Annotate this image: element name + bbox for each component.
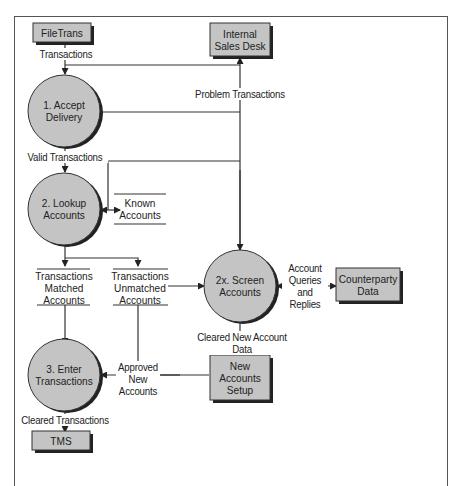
flow-line: Account	[282, 262, 328, 274]
store-line: Accounts	[119, 294, 161, 306]
entity-line: Data	[357, 285, 378, 297]
process-lookup-accounts: 2. Lookup Accounts	[31, 195, 97, 223]
process-enter-transactions: 3. Enter Transactions	[31, 361, 97, 389]
process-line: 1. Accept	[43, 99, 85, 111]
flow-label-account-queries: Account Queries and Replies	[282, 262, 328, 310]
store-line: Accounts	[43, 294, 85, 306]
entity-filetrans: FileTrans	[35, 23, 88, 42]
store-matched-accounts: Transactions Matched Accounts	[33, 270, 96, 306]
entity-new-accounts-setup: New Accounts Setup	[212, 355, 267, 400]
process-line: Accounts	[219, 286, 261, 298]
flow-label-problem-transactions: Problem Transactions	[194, 88, 286, 100]
flow-label-cleared-transactions: Cleared Transactions	[20, 414, 110, 426]
store-line: Unmatched	[114, 282, 166, 294]
store-known-accounts: Known Accounts	[116, 196, 164, 222]
flow-line: Approved	[116, 361, 160, 373]
entity-line: Sales Desk	[214, 40, 265, 52]
flow-line: Replies	[282, 298, 328, 310]
flow-label-transactions: Transactions	[33, 48, 99, 60]
entity-tms: TMS	[34, 431, 87, 450]
process-line: Transactions	[35, 375, 93, 387]
store-unmatched-accounts: Transactions Unmatched Accounts	[109, 270, 172, 306]
entity-line: New	[230, 360, 250, 372]
entity-line: Accounts	[219, 372, 261, 384]
process-line: 3. Enter	[46, 363, 81, 375]
entity-counterparty-data: Counterparty Data	[339, 268, 398, 301]
flow-label-valid-transactions: Valid Transactions	[22, 151, 108, 163]
store-line: Known	[125, 197, 156, 209]
entity-line: Counterparty	[339, 273, 398, 285]
flow-label-approved-new-accounts: Approved New Accounts	[116, 361, 160, 397]
process-accept-delivery: 1. Accept Delivery	[31, 97, 97, 125]
process-line: Accounts	[43, 209, 85, 221]
process-line: 2. Lookup	[42, 197, 86, 209]
store-line: Matched	[45, 282, 84, 294]
flow-line: and	[282, 286, 328, 298]
store-line: Accounts	[119, 209, 161, 221]
flow-line: Queries	[282, 274, 328, 286]
entity-line: Internal	[223, 28, 257, 40]
flow-line: Accounts	[116, 385, 160, 397]
flow-label-cleared-new-account-data: Cleared New Account Data	[188, 331, 297, 355]
entity-internal-sales-desk: Internal Sales Desk	[212, 23, 267, 56]
store-line: Transactions	[35, 270, 93, 282]
store-line: Transactions	[111, 270, 169, 282]
flow-line: New	[116, 373, 160, 385]
process-line: 2x. Screen	[216, 274, 264, 286]
process-screen-accounts: 2x. Screen Accounts	[207, 272, 273, 300]
entity-line: Setup	[227, 384, 253, 396]
process-line: Delivery	[46, 111, 83, 123]
